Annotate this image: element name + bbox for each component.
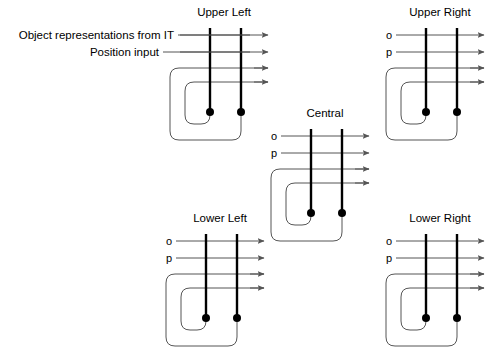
column-node-1-lower-right bbox=[422, 314, 430, 322]
module-lower-right: Lower Rightop bbox=[386, 212, 484, 346]
global-input-leaders: Object representations from ITPosition i… bbox=[19, 29, 250, 58]
column-node-2-central bbox=[338, 209, 346, 217]
o-input-label-lower-right: o bbox=[386, 235, 392, 247]
position-input-caption: Position input bbox=[90, 46, 160, 58]
feedback-loop-inner-lower-left bbox=[181, 288, 264, 330]
modules-layer: Upper LeftUpper RightopCentralopLower Le… bbox=[166, 6, 484, 346]
module-upper-left: Upper Left bbox=[170, 6, 268, 140]
column-node-1-upper-left bbox=[206, 108, 214, 116]
column-node-1-lower-left bbox=[202, 314, 210, 322]
module-title-upper-right: Upper Right bbox=[409, 6, 471, 18]
p-input-label-lower-right: p bbox=[386, 252, 392, 264]
module-title-lower-left: Lower Left bbox=[193, 212, 248, 224]
column-node-2-lower-right bbox=[453, 314, 461, 322]
column-node-1-central bbox=[307, 209, 315, 217]
module-title-central: Central bbox=[306, 107, 343, 119]
feedback-loop-inner-lower-right bbox=[401, 288, 484, 330]
figure-canvas: Upper LeftUpper RightopCentralopLower Le… bbox=[0, 0, 496, 361]
module-title-lower-right: Lower Right bbox=[409, 212, 471, 224]
module-central: Centralop bbox=[271, 107, 369, 241]
o-input-label-upper-right: o bbox=[386, 29, 392, 41]
object-input-caption: Object representations from IT bbox=[19, 29, 174, 41]
module-title-upper-left: Upper Left bbox=[197, 6, 252, 18]
o-input-label-central: o bbox=[271, 130, 277, 142]
p-input-label-lower-left: p bbox=[166, 252, 172, 264]
p-input-label-upper-right: p bbox=[386, 46, 392, 58]
module-upper-right: Upper Rightop bbox=[386, 6, 484, 140]
column-node-1-upper-right bbox=[422, 108, 430, 116]
feedback-loop-inner-upper-left bbox=[185, 82, 268, 124]
column-node-2-lower-left bbox=[233, 314, 241, 322]
o-input-label-lower-left: o bbox=[166, 235, 172, 247]
column-node-2-upper-left bbox=[237, 108, 245, 116]
column-node-2-upper-right bbox=[453, 108, 461, 116]
feedback-loop-inner-central bbox=[286, 183, 369, 225]
module-lower-left: Lower Leftop bbox=[166, 212, 264, 346]
network-architecture-diagram: Upper LeftUpper RightopCentralopLower Le… bbox=[0, 0, 496, 361]
feedback-loop-inner-upper-right bbox=[401, 82, 484, 124]
p-input-label-central: p bbox=[271, 147, 277, 159]
